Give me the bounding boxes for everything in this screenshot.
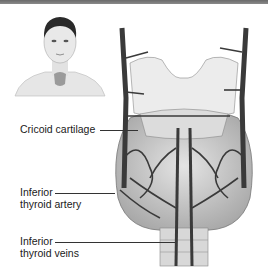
- leader-line-cricoid: [100, 130, 138, 131]
- label-text: Inferior: [20, 235, 79, 247]
- thyroid-illustration: [100, 8, 268, 268]
- leader-line-artery: [55, 193, 115, 194]
- leader-line-veins: [55, 242, 175, 243]
- label-text: thyroid artery: [20, 198, 81, 210]
- label-text: Inferior: [20, 186, 81, 198]
- label-text: thyroid veins: [20, 247, 79, 259]
- label-inferior-thyroid-artery: Inferior thyroid artery: [20, 186, 81, 210]
- label-cricoid-cartilage: Cricoid cartilage: [20, 123, 95, 135]
- label-text: Cricoid cartilage: [20, 123, 95, 135]
- person-thumbnail-illustration: [10, 8, 110, 98]
- top-border-bar: [0, 0, 268, 4]
- label-inferior-thyroid-veins: Inferior thyroid veins: [20, 235, 79, 259]
